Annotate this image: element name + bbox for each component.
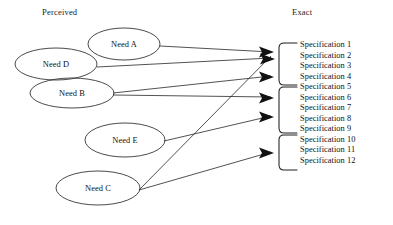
column-label-exact: Exact xyxy=(292,7,312,17)
specification-item[interactable]: Specification 1 xyxy=(300,40,355,51)
edge-need-b-to-group2 xyxy=(113,95,271,97)
specification-item[interactable]: Specification 11 xyxy=(300,145,355,156)
specification-item[interactable]: Specification 5 xyxy=(300,82,355,93)
need-a-label: Need A xyxy=(111,40,137,49)
specification-item[interactable]: Specification 10 xyxy=(300,135,355,146)
diagram-canvas: Perceived Exact Need ANeed DNeed BNeed E… xyxy=(0,0,393,225)
need-b-label: Need B xyxy=(59,89,85,98)
bracket-specs-1-4 xyxy=(279,43,297,85)
arrowhead-spec-group3-a xyxy=(259,148,274,159)
arrowhead-spec-group2-b xyxy=(259,112,274,123)
specification-item[interactable]: Specification 9 xyxy=(300,124,355,135)
edge-need-c-to-group3 xyxy=(139,152,271,190)
bracket-specs-10-12 xyxy=(279,135,297,170)
specification-item[interactable]: Specification 6 xyxy=(300,93,355,104)
arrowhead-spec-group1-b xyxy=(260,54,275,65)
specification-item[interactable]: Specification 7 xyxy=(300,103,355,114)
specification-item[interactable]: Specification 8 xyxy=(300,114,355,125)
specification-item[interactable]: Specification 2 xyxy=(300,51,355,62)
bracket-group xyxy=(279,43,297,170)
need-e-label: Need E xyxy=(112,136,137,145)
edge-need-a-to-group1 xyxy=(160,46,271,52)
need-d-label: Need D xyxy=(43,60,69,69)
specification-item[interactable]: Specification 4 xyxy=(300,72,355,83)
column-label-perceived: Perceived xyxy=(42,7,77,17)
edge-need-b-to-group1 xyxy=(113,76,271,93)
arrowhead-spec-group1-a xyxy=(259,47,274,58)
arrowhead-group xyxy=(259,47,275,159)
specification-item[interactable]: Specification 12 xyxy=(300,156,355,167)
edge-need-d-to-group1 xyxy=(97,58,271,67)
specification-item[interactable]: Specification 3 xyxy=(300,61,355,72)
need-ellipse-group xyxy=(15,28,165,205)
edge-group xyxy=(97,46,271,190)
specification-list: Specification 1Specification 2Specificat… xyxy=(300,40,355,167)
edge-need-c-to-group1 xyxy=(139,56,271,190)
bracket-specs-5-9 xyxy=(279,87,297,133)
need-c-label: Need C xyxy=(85,184,111,193)
edge-need-e-to-group2 xyxy=(164,116,271,141)
arrowhead-spec-group2-a xyxy=(259,93,274,104)
